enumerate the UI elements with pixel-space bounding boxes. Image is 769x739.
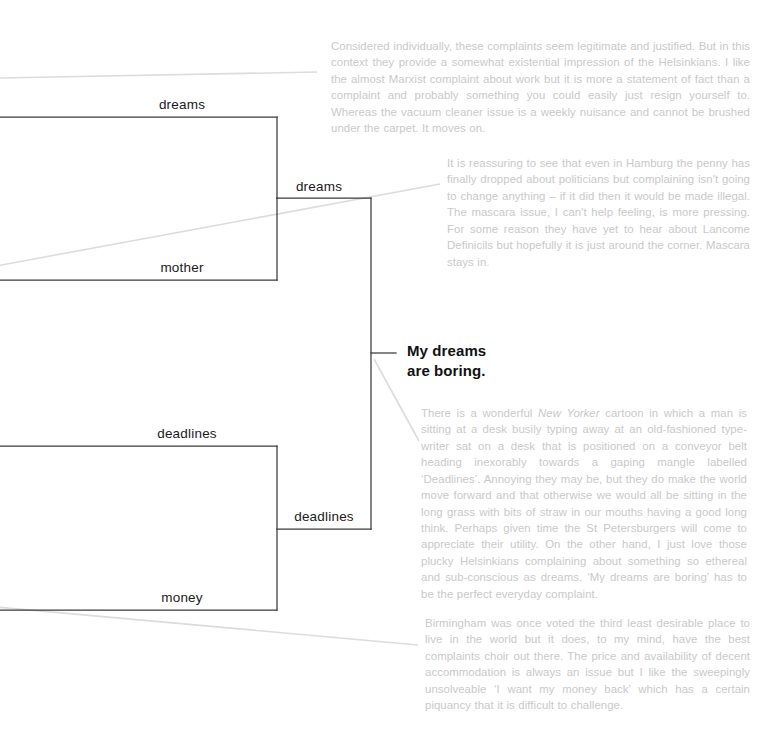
annotation-italic-title: New Yorker [538, 407, 600, 419]
node-label-cluster-deadlines: deadlines [294, 510, 354, 524]
diagram-canvas: dreams mother dreams deadlines money dea… [0, 0, 769, 739]
annotation-new-yorker-deadlines: There is a wonderful New Yorker cartoon … [421, 405, 747, 602]
node-label-cluster-dreams: dreams [296, 180, 342, 194]
annotation-birmingham-money: Birmingham was once voted the third leas… [425, 615, 750, 714]
leader-line-hamburg [0, 184, 440, 266]
root-node-caption: My dreams are boring. [407, 341, 486, 382]
leader-line-birmingham [0, 607, 418, 645]
leader-lines [0, 72, 440, 645]
annotation-hamburg-mascara: It is reassuring to see that even in Ham… [447, 155, 750, 270]
leader-line-helsinki [0, 72, 317, 78]
annotation-text-tail: cartoon in which a man is sitting at a d… [421, 407, 747, 600]
annotation-helsinki-complaints: Considered individually, these complaint… [331, 38, 750, 137]
node-label-deadlines-top: deadlines [157, 427, 217, 441]
node-label-mother: mother [160, 261, 203, 275]
node-label-dreams-top: dreams [159, 98, 205, 112]
node-label-money: money [161, 591, 203, 605]
annotation-text-lead: There is a wonderful [421, 407, 538, 419]
